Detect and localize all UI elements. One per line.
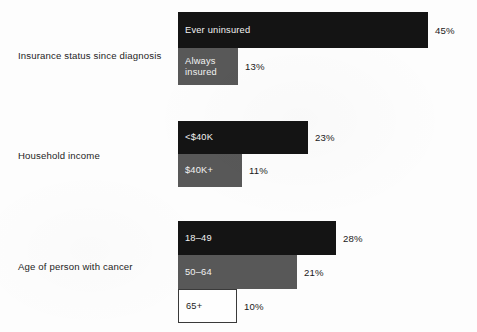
bar-category-label: $40K+	[178, 165, 213, 176]
bar-category-label: <$40K	[178, 132, 213, 143]
group-label: Insurance status since diagnosis	[18, 50, 170, 62]
bar-row: Ever uninsured 45%	[178, 12, 455, 48]
bar-category-label: Always insured	[178, 56, 217, 77]
group-label: Household income	[18, 150, 170, 162]
bar-row: 50–64 21%	[178, 255, 324, 289]
bar-value-label: 11%	[242, 165, 268, 176]
bar: Ever uninsured	[178, 12, 428, 48]
bar: 50–64	[178, 255, 297, 289]
bar-category-label: Ever uninsured	[178, 25, 250, 36]
bar-category-label: 65+	[179, 301, 202, 312]
bar-value-label: 21%	[297, 267, 324, 278]
bar-row: $40K+ 11%	[178, 154, 268, 187]
bar-category-label: 50–64	[178, 267, 212, 278]
bar-row: <$40K 23%	[178, 121, 335, 154]
bar: <$40K	[178, 121, 308, 154]
bar-value-label: 28%	[336, 233, 363, 244]
bar-category-label: 18–49	[178, 233, 212, 244]
bar: 65+	[178, 289, 237, 323]
bar: 18–49	[178, 221, 336, 255]
bar: $40K+	[178, 154, 242, 187]
bar: Always insured	[178, 48, 238, 85]
bar-chart: Insurance status since diagnosis Ever un…	[0, 0, 477, 332]
bar-value-label: 10%	[237, 301, 264, 312]
group-label: Age of person with cancer	[18, 261, 170, 273]
bar-value-label: 45%	[428, 25, 455, 36]
bar-row: 65+ 10%	[178, 289, 264, 323]
bar-value-label: 23%	[308, 132, 335, 143]
bar-row: Always insured 13%	[178, 48, 265, 85]
bar-row: 18–49 28%	[178, 221, 363, 255]
bar-value-label: 13%	[238, 61, 265, 72]
